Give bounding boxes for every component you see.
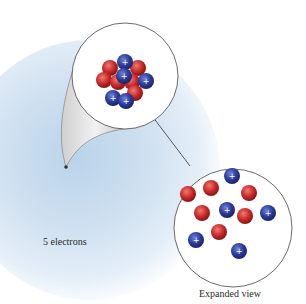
svg-text:+: + bbox=[265, 209, 272, 218]
svg-text:+: + bbox=[236, 247, 243, 256]
svg-text:+: + bbox=[143, 77, 150, 86]
svg-text:+: + bbox=[229, 172, 236, 181]
svg-text:+: + bbox=[110, 94, 117, 103]
atom-diagram: + + + + + + + + + + bbox=[0, 0, 306, 304]
svg-text:+: + bbox=[224, 206, 231, 215]
svg-text:+: + bbox=[122, 58, 129, 67]
svg-text:+: + bbox=[121, 72, 128, 81]
expanded-view-label: Expanded view bbox=[199, 288, 261, 299]
nucleus-point bbox=[64, 165, 68, 169]
expanded-view-circle bbox=[174, 169, 292, 287]
svg-text:+: + bbox=[123, 97, 130, 106]
svg-text:+: + bbox=[193, 236, 200, 245]
electrons-label: 5 electrons bbox=[43, 236, 87, 247]
